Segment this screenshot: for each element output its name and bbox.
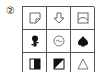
question-number: ②: [6, 6, 15, 16]
grid-cell-3-2: [47, 53, 71, 72]
grid-cell-1-1: [23, 7, 47, 30]
grid-cell-2-1: [23, 30, 47, 53]
half-filled-square-vertical-icon: [29, 58, 41, 70]
grid-cell-2-3: [71, 30, 95, 53]
grid-cell-1-2: [47, 7, 71, 30]
grid-cell-2-2: [47, 30, 71, 53]
triangle-outline-icon: [77, 58, 89, 70]
circle-wavy-face-icon: [53, 35, 65, 47]
figure-grid: [22, 6, 94, 72]
down-arrow-outline-icon: [53, 12, 65, 24]
spade-filled-icon: [77, 35, 89, 47]
keyhole-key-filled-icon: [29, 35, 41, 47]
grid-cell-3-3: [71, 53, 95, 72]
folded-corner-square-icon: [29, 12, 41, 24]
grid-cell-1-3: [71, 7, 95, 30]
square-with-arc-icon: [77, 12, 89, 24]
diagonal-half-filled-square-icon: [53, 58, 65, 70]
grid-cell-3-1: [23, 53, 47, 72]
